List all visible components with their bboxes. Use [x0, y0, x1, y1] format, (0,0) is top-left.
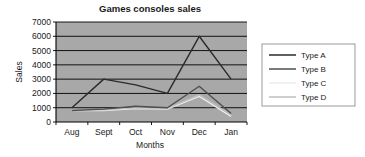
chart-container: Games consoles sales01000200030004000500… [0, 0, 365, 157]
x-axis-label: Months [136, 140, 164, 150]
y-axis-label: Sales [14, 61, 24, 82]
y-axis-tick-label: 2000 [32, 88, 51, 98]
y-axis-tick-label: 6000 [32, 31, 51, 41]
y-axis-tick-label: 0 [46, 117, 51, 127]
legend-label-type-a: Type A [301, 51, 326, 60]
y-axis-tick-label: 7000 [32, 17, 51, 27]
y-axis-tick-label: 1000 [32, 103, 51, 113]
x-axis-tick-label: Jan [224, 127, 238, 137]
legend-label-type-c: Type C [301, 79, 327, 88]
x-axis-tick-label: Dec [192, 127, 208, 137]
x-axis-tick-label: Aug [64, 127, 79, 137]
line-chart: Games consoles sales01000200030004000500… [0, 0, 365, 157]
x-axis-tick-label: Oct [129, 127, 143, 137]
chart-title: Games consoles sales [99, 3, 201, 14]
y-axis-tick-label: 5000 [32, 46, 51, 56]
y-axis-tick-label: 3000 [32, 74, 51, 84]
x-axis-tick-label: Nov [160, 127, 176, 137]
y-axis-tick-label: 4000 [32, 60, 51, 70]
legend-label-type-d: Type D [301, 93, 327, 102]
legend-label-type-b: Type B [301, 65, 326, 74]
x-axis-tick-label: Sept [95, 127, 113, 137]
